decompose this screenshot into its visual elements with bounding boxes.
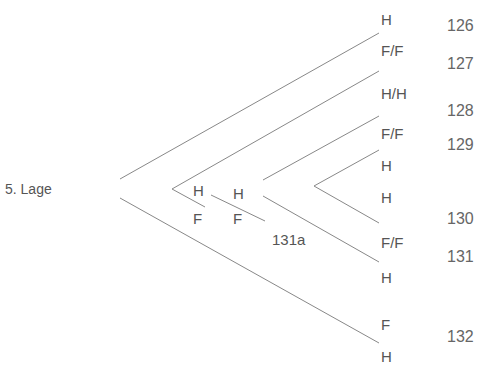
genealogy-tree-diagram: 5. Lage HF/FH/HF/FHHF/FHFH 1261271281291… — [0, 0, 486, 376]
branch-line — [120, 198, 379, 343]
branch-line — [120, 33, 379, 179]
leaf-label: H — [381, 270, 392, 285]
generation-number: 130 — [447, 211, 474, 227]
branch-line — [314, 186, 379, 223]
leaf-label: H — [381, 158, 392, 173]
leaf-label: H/H — [381, 86, 407, 101]
generation-number: 127 — [447, 56, 474, 72]
root-label: 5. Lage — [5, 182, 52, 196]
inner-label: H — [193, 183, 204, 198]
leaf-label: F/F — [381, 43, 404, 58]
branch-line — [263, 196, 379, 262]
inner-label: F — [193, 211, 202, 226]
generation-number: 126 — [447, 18, 474, 34]
branch-line — [314, 150, 379, 186]
generation-number: 131 — [447, 249, 474, 265]
branch-line — [263, 116, 379, 180]
leaf-label: F/F — [381, 126, 404, 141]
leaf-label: F — [381, 317, 390, 332]
generation-number: 132 — [447, 329, 474, 345]
leaf-label: H — [381, 349, 392, 364]
generation-number: 128 — [447, 103, 474, 119]
leaf-label: F/F — [381, 235, 404, 250]
inner-label: 131a — [272, 232, 305, 247]
inner-label: H — [233, 186, 244, 201]
leaf-label: H — [381, 190, 392, 205]
inner-label: F — [233, 211, 242, 226]
branch-line — [172, 71, 379, 189]
generation-number: 129 — [447, 137, 474, 153]
leaf-label: H — [381, 12, 392, 27]
